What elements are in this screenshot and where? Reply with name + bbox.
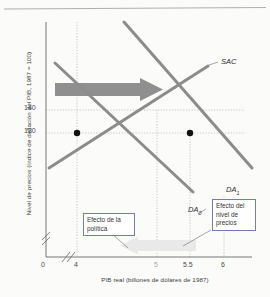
curve-label-sac: SAC	[221, 57, 236, 66]
chart-figure: Nivel de precios (índice de deflación de…	[0, 0, 270, 297]
point-price-level-effect	[187, 130, 193, 136]
curve-label-da1: DA1	[226, 185, 239, 196]
x-tick-5-5: 5.5	[183, 261, 193, 268]
policy-effect-arrow	[55, 78, 163, 101]
x-axis-title: PIB real (billones de dólares de 1987)	[55, 276, 255, 283]
callout-policy-effect: Efecto de la política	[83, 213, 135, 236]
x-tick-5: 5	[154, 261, 158, 268]
curve-label-da1-sub: 1	[236, 190, 239, 196]
point-initial-equilibrium	[74, 130, 80, 136]
x-tick-0: 0	[41, 261, 45, 268]
page-top-rule	[4, 8, 266, 10]
y-tick-130: 130	[24, 127, 36, 134]
curve-label-da0-sub: 0	[198, 210, 201, 216]
curve-label-sac-leader	[209, 62, 218, 65]
curve-label-da1-base: DA	[226, 185, 236, 194]
x-tick-4: 4	[74, 261, 78, 268]
x-tick-6: 6	[221, 261, 225, 268]
curve-label-da0-base: DA	[188, 205, 198, 214]
curve-label-da0: DA0	[188, 205, 201, 216]
y-tick-140: 140	[24, 104, 36, 111]
price-level-effect-arrow	[120, 237, 196, 255]
chart-plot-area	[0, 0, 270, 297]
curve-da0	[55, 63, 193, 192]
callout-price-leader	[183, 230, 211, 246]
callout-price-level-effect: Efecto del nivel de precios	[212, 199, 256, 231]
